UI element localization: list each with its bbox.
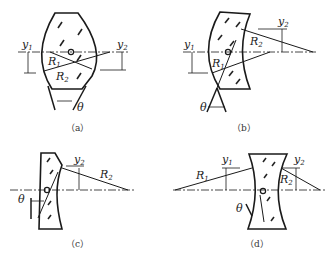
label-r2-c: R2 bbox=[99, 168, 113, 182]
label-r2-b: R2 bbox=[249, 35, 263, 49]
panel-c: y2 R2 θ （c） bbox=[10, 153, 135, 249]
label-r1-d: R1 bbox=[195, 169, 209, 183]
label-y2-c: y2 bbox=[73, 153, 85, 167]
caption-b: （b） bbox=[232, 123, 256, 133]
label-y1-d: y1 bbox=[221, 153, 233, 167]
label-theta-b: θ bbox=[200, 101, 207, 114]
caption-a: （a） bbox=[66, 123, 89, 133]
label-y2-b: y2 bbox=[277, 15, 289, 29]
label-y2-a: y2 bbox=[116, 38, 128, 52]
lens-b-outline bbox=[209, 12, 251, 89]
lens-c-outline bbox=[39, 153, 62, 229]
caption-c: （c） bbox=[66, 239, 89, 249]
panel-b: y1 y2 R2 R1 θ （b） bbox=[183, 12, 316, 133]
label-y1-a: y1 bbox=[21, 38, 33, 52]
panel-d: y1 y2 R1 R2 θ （d） bbox=[173, 153, 325, 249]
caption-d: （d） bbox=[245, 239, 269, 249]
panel-a: y1 y2 R1 R2 θ （a） bbox=[18, 13, 128, 133]
label-r2-a: R2 bbox=[55, 70, 69, 84]
label-r1-a: R1 bbox=[47, 55, 61, 69]
lens-geometry-diagram: y1 y2 R1 R2 θ （a） y1 y2 R2 R1 θ （b） bbox=[0, 0, 336, 258]
label-y2-d: y2 bbox=[293, 153, 305, 167]
label-y1-b: y1 bbox=[183, 38, 195, 52]
label-theta-d: θ bbox=[236, 202, 243, 215]
label-r2-d: R2 bbox=[279, 173, 293, 187]
label-theta-a: θ bbox=[77, 101, 84, 114]
label-theta-c: θ bbox=[18, 193, 25, 206]
lens-d-outline bbox=[248, 154, 287, 229]
label-r1-b: R1 bbox=[211, 57, 225, 71]
